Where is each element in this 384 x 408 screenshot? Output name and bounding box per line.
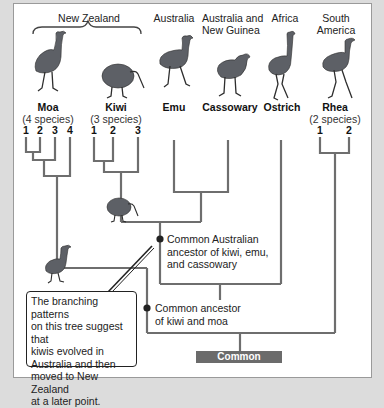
kiwi-species-2: 2 [110, 124, 116, 136]
callout-line-6: at a later point. [31, 395, 132, 408]
root-common-ancestor: Common ancestor [196, 351, 282, 363]
region-australia: Australia [147, 12, 201, 24]
ostrich-icon [269, 31, 295, 100]
callout-line-2: on this tree suggest that [31, 320, 132, 345]
kiwi-ancestor-icon [107, 198, 138, 222]
taxon-moa: Moa [28, 101, 68, 113]
callout-line-3: kiwis evolved in [31, 345, 132, 358]
australian-ancestor-label: Common Australian ancestor of kiwi, emu,… [167, 233, 269, 271]
taxon-cassowary: Cassowary [200, 101, 260, 113]
rhea-species-2: 2 [346, 124, 352, 136]
moa-ancestor-icon [46, 245, 72, 283]
emu-icon [160, 35, 193, 87]
rhea-icon [323, 38, 355, 98]
kiwi-species-3: 3 [135, 124, 141, 136]
region-new-zealand: New Zealand [57, 12, 121, 24]
region-south-america-2: America [314, 24, 358, 36]
australian-ancestor-line-1: Common Australian [167, 233, 269, 246]
moa-species-1: 1 [23, 124, 29, 136]
taxon-ostrich: Ostrich [257, 101, 307, 113]
australian-ancestor-line-3: and cassowary [167, 258, 269, 271]
kiwi-moa-ancestor-label: Common ancestor of kiwi and moa [155, 302, 241, 327]
kiwi-moa-ancestor-line-1: Common ancestor [155, 302, 241, 315]
kiwi-species-1: 1 [91, 124, 97, 136]
callout-box: The branching patterns on this tree sugg… [26, 291, 137, 367]
kiwi-moa-ancestor-line-2: of kiwi and moa [155, 315, 241, 328]
region-south-america-1: South [314, 12, 358, 24]
callout-line-4: Australia and then [31, 358, 132, 371]
moa-species-3: 3 [52, 124, 58, 136]
kiwi-icon [102, 64, 144, 98]
node-dot-kiwi-moa [143, 304, 150, 311]
region-australia-new-guinea-2: New Guinea [202, 24, 278, 36]
taxon-rhea: Rhea [315, 101, 355, 113]
rhea-species-1: 1 [317, 124, 323, 136]
region-australia-new-guinea-1: Australia and [202, 12, 278, 24]
taxon-kiwi: Kiwi [96, 101, 136, 113]
taxon-emu: Emu [154, 101, 194, 113]
moa-icon [35, 31, 66, 91]
moa-species-4: 4 [67, 124, 73, 136]
moa-species-2: 2 [37, 124, 43, 136]
taxon-rhea-species: (2 species) [305, 113, 365, 125]
region-africa: Africa [268, 12, 302, 24]
node-dot-australian [156, 235, 163, 242]
australian-ancestor-line-2: ancestor of kiwi, emu, [167, 246, 269, 259]
callout-line-5: moved to New Zealand [31, 370, 132, 395]
cassowary-icon [217, 54, 250, 96]
callout-line-1: The branching patterns [31, 295, 132, 320]
